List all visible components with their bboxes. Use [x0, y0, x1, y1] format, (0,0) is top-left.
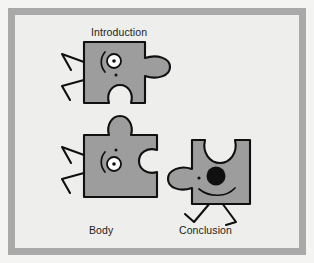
body-arms: [62, 147, 84, 193]
puzzle-piece-introduction: [62, 42, 170, 103]
conclusion-legs: [185, 203, 236, 225]
body-nose: [115, 149, 118, 152]
conclusion-leg-right: [222, 203, 236, 225]
introduction-arm-lower: [62, 80, 84, 100]
body-pupil: [112, 162, 116, 166]
introduction-arm-upper: [62, 54, 84, 70]
introduction-nose: [115, 74, 118, 77]
body-arm-upper: [62, 147, 84, 163]
introduction-pupil: [112, 59, 116, 63]
figure-root: Introduction Body Conclusion: [0, 0, 314, 263]
puzzle-illustration: [0, 0, 314, 263]
body-piece-body: [84, 116, 157, 197]
puzzle-piece-conclusion: [168, 140, 250, 225]
label-introduction: Introduction: [91, 27, 147, 38]
label-conclusion: Conclusion: [179, 225, 232, 236]
introduction-arms: [62, 54, 84, 100]
body-arm-lower: [62, 173, 84, 193]
label-body: Body: [89, 225, 113, 236]
puzzle-piece-body: [62, 116, 157, 197]
conclusion-nose: [197, 176, 200, 179]
conclusion-eye: [207, 167, 226, 186]
introduction-piece-body: [84, 42, 170, 103]
conclusion-leg-left: [185, 203, 210, 222]
